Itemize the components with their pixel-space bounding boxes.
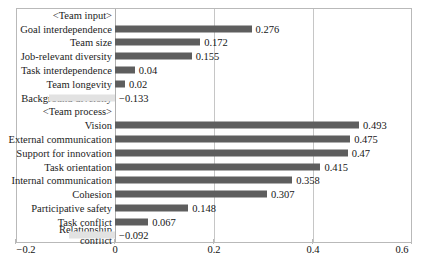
x-tick-label: 0: [112, 244, 117, 256]
bar: [49, 94, 115, 101]
bar: [115, 163, 320, 170]
bar: [115, 25, 252, 32]
category-label: Vision: [85, 120, 112, 131]
category-label: External communication: [8, 133, 112, 144]
group-header-label: <Team process>: [43, 106, 112, 117]
data-label: 0.358: [296, 175, 320, 186]
bar: [115, 149, 348, 156]
category-label: Task interdependence: [21, 65, 112, 76]
x-axis: −0.200.20.40.6: [0, 244, 426, 264]
data-label: 0.04: [139, 65, 157, 76]
bar: [69, 232, 115, 239]
category-label: Goal interdependence: [20, 23, 112, 34]
data-label: 0.155: [196, 51, 220, 62]
bar-row: Support for innovation0.47: [0, 146, 426, 160]
category-label: Team longevity: [47, 78, 112, 89]
category-label: Task orientation: [44, 161, 112, 172]
bar: [115, 80, 125, 87]
x-tick-label: 0.4: [306, 244, 319, 256]
x-tick-mark: [312, 239, 313, 244]
data-label: 0.172: [204, 37, 228, 48]
bar-row: Background diversity−0.133: [0, 91, 426, 105]
x-tick-mark: [411, 239, 412, 244]
bar-row: External communication0.475: [0, 132, 426, 146]
category-label: Team size: [70, 37, 112, 48]
x-tick-label: −0.2: [16, 244, 35, 256]
bar: [115, 135, 350, 142]
bar-row: Vision0.493: [0, 118, 426, 132]
x-tick-mark: [213, 239, 214, 244]
bar: [115, 191, 267, 198]
data-label: 0.493: [363, 120, 387, 131]
bar: [115, 177, 292, 184]
group-header-label: <Team input>: [53, 9, 112, 20]
bar-row: Internal communication0.358: [0, 173, 426, 187]
bar-row: Task orientation0.415: [0, 160, 426, 174]
bar-row: Job-relevant diversity0.155: [0, 49, 426, 63]
bar: [115, 39, 200, 46]
data-label: 0.02: [129, 78, 147, 89]
bar-row: Participative safety0.148: [0, 201, 426, 215]
bar: [115, 204, 188, 211]
x-tick-label: 0.2: [207, 244, 220, 256]
x-tick-mark: [114, 239, 115, 244]
data-label: 0.307: [271, 189, 295, 200]
category-label: Participative safety: [31, 202, 112, 213]
data-label: 0.47: [352, 147, 370, 158]
group-header-row: <Team input>: [0, 8, 426, 22]
data-label: 0.148: [192, 202, 216, 213]
bar-row: Task interdependence0.04: [0, 63, 426, 77]
category-label: Job-relevant diversity: [21, 51, 112, 62]
data-label: 0.067: [152, 216, 176, 227]
group-header-row: <Team process>: [0, 104, 426, 118]
category-label: Internal communication: [11, 175, 112, 186]
bar: [115, 218, 148, 225]
bar-rows: <Team input>Goal interdependence0.276Tea…: [0, 8, 426, 243]
x-tick-mark: [15, 239, 16, 244]
bar: [115, 122, 359, 129]
bar-row: Team longevity0.02: [0, 77, 426, 91]
data-label: −0.092: [119, 230, 149, 241]
data-label: 0.415: [324, 161, 348, 172]
x-tick-label: 0.6: [395, 244, 408, 256]
data-label: −0.133: [119, 92, 149, 103]
bar-chart: <Team input>Goal interdependence0.276Tea…: [0, 0, 426, 267]
category-label: Cohesion: [72, 189, 112, 200]
data-label: 0.276: [256, 23, 280, 34]
bar-row: Cohesion0.307: [0, 187, 426, 201]
data-label: 0.475: [354, 133, 378, 144]
bar: [115, 67, 135, 74]
category-label: Support for innovation: [16, 147, 112, 158]
bar-row: Goal interdependence0.276: [0, 22, 426, 36]
bar: [115, 53, 192, 60]
bar-row: Team size0.172: [0, 36, 426, 50]
